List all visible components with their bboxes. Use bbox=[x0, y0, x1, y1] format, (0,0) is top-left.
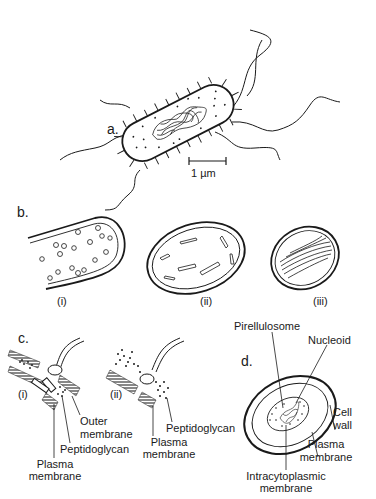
bacterium-rod-illustration bbox=[60, 30, 340, 210]
panel-label-d: d. bbox=[241, 354, 253, 368]
subpanel-label-b-iii: (iii) bbox=[313, 295, 328, 307]
label-outer-membrane-line2: membrane bbox=[80, 428, 133, 440]
label-plasma-membrane-c-i-line1: Plasma bbox=[28, 458, 82, 470]
cell-peripheral-membranes-illustration bbox=[138, 210, 254, 306]
label-plasma-membrane-c-ii-line1: Plasma bbox=[142, 436, 196, 448]
label-plasma-membrane-d-line2: membrane bbox=[296, 451, 356, 463]
cell-stacked-membranes-illustration bbox=[260, 215, 351, 302]
label-plasma-membrane-d-line1: Plasma bbox=[296, 438, 356, 450]
label-peptidoglycan-c-ii: Peptidoglycan bbox=[166, 422, 235, 434]
label-outer-membrane-line1: Outer bbox=[80, 415, 108, 427]
panel-label-c: c. bbox=[18, 331, 29, 345]
label-cell-wall-line2: wall bbox=[333, 419, 352, 431]
label-plasma-membrane-c-ii-line2: membrane bbox=[142, 448, 196, 460]
label-plasma-membrane-c-i-line2: membrane bbox=[28, 470, 82, 482]
subpanel-label-c-ii: (ii) bbox=[110, 388, 122, 400]
label-cell-wall-line1: Cell bbox=[333, 406, 352, 418]
cell-membrane-vesicles-illustration bbox=[28, 217, 125, 289]
subpanel-label-c-i: (i) bbox=[18, 388, 28, 400]
label-pirellulosome: Pirellulosome bbox=[234, 320, 300, 332]
label-intracytoplasmic-membrane-line2: membrane bbox=[236, 482, 336, 494]
subpanel-label-b-ii: (ii) bbox=[200, 295, 212, 307]
scale-bar bbox=[189, 157, 226, 165]
label-nucleoid: Nucleoid bbox=[308, 334, 351, 346]
subpanel-label-b-i: (i) bbox=[57, 295, 67, 307]
label-peptidoglycan-c-i: Peptidoglycan bbox=[60, 443, 129, 455]
scale-bar-label: 1 µm bbox=[191, 167, 216, 179]
panel-label-b: b. bbox=[17, 205, 29, 219]
panel-label-a: a. bbox=[107, 122, 119, 136]
label-intracytoplasmic-membrane-line1: Intracytoplasmic bbox=[236, 470, 336, 482]
